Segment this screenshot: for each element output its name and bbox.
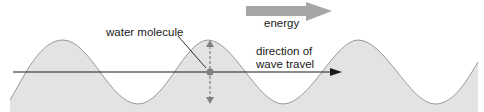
water-molecule-label: water molecule — [106, 26, 183, 39]
direction-label-line1: direction of — [256, 45, 312, 58]
water-molecule-dot — [206, 68, 213, 75]
direction-label-line2: wave travel — [256, 58, 314, 71]
wave-diagram — [0, 0, 484, 112]
wave-shape — [10, 40, 478, 112]
energy-label: energy — [264, 17, 299, 30]
